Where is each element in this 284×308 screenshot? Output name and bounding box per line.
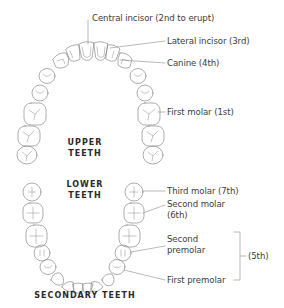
upper-heading-line1: UPPER (60, 137, 110, 148)
label-canine: Canine (4th) (167, 58, 219, 69)
label-lateral-incisor: Lateral incisor (3rd) (167, 36, 250, 47)
lower-first-premolar-left (40, 260, 56, 275)
upper-third-molar-right (143, 146, 163, 164)
diagram-title: SECONDARY TEETH (30, 290, 140, 301)
lower-canine-right (102, 274, 114, 286)
lower-second-premolar-left (34, 245, 50, 261)
label-central-incisor: Central incisor (2nd to erupt) (92, 13, 214, 24)
label-second-molar-line1: Second molar (167, 199, 225, 210)
lower-first-premolar-right (109, 260, 125, 275)
upper-first-premolar-right (130, 69, 146, 84)
upper-lateral-incisor-left (66, 45, 80, 61)
lower-teeth-heading: LOWER TEETH (60, 179, 110, 201)
upper-first-premolar-left (39, 69, 55, 84)
upper-canine-left (53, 53, 69, 68)
label-third-molar: Third molar (7th) (167, 186, 239, 197)
upper-third-molar-left (17, 146, 37, 164)
label-second-molar: Second molar (6th) (167, 199, 225, 221)
upper-heading-line2: TEETH (60, 148, 110, 159)
upper-teeth-heading: UPPER TEETH (60, 137, 110, 159)
lower-heading-line1: LOWER (60, 179, 110, 190)
label-first-molar: First molar (1st) (167, 107, 234, 118)
label-second-molar-line2: (6th) (167, 210, 225, 221)
lower-heading-line2: TEETH (60, 190, 110, 201)
upper-second-premolar-right (137, 85, 153, 101)
label-first-premolar: First premolar (167, 275, 225, 286)
label-second-premolar-line2: premolar (167, 245, 205, 256)
upper-second-premolar-left (32, 85, 48, 101)
label-premolars-group: (5th) (248, 251, 269, 262)
lower-second-premolar-right (115, 245, 131, 261)
lower-canine-left (51, 273, 64, 285)
secondary-teeth-diagram: Central incisor (2nd to erupt) Lateral i… (0, 0, 284, 308)
label-second-premolar-line1: Second (167, 234, 205, 245)
label-second-premolar: Second premolar (167, 234, 205, 256)
